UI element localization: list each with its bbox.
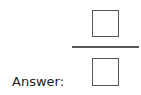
numerator-input-box[interactable] bbox=[92, 10, 119, 37]
denominator-input-box[interactable] bbox=[92, 58, 119, 86]
answer-label: Answer: bbox=[12, 74, 64, 90]
fraction-bar bbox=[72, 46, 139, 48]
